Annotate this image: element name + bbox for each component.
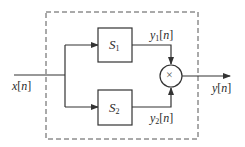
system-diagram [0,0,245,147]
block-s2-label: S2 [109,101,120,118]
y2-label: y2[n] [150,112,173,128]
multiplier-symbol: × [166,69,173,82]
y1-line [132,45,171,64]
y2-line [132,88,171,107]
y1-label: y1[n] [150,29,173,45]
input-label: x[n] [12,80,31,92]
output-label: y[n] [212,82,231,94]
block-s1-label: S1 [109,38,120,55]
